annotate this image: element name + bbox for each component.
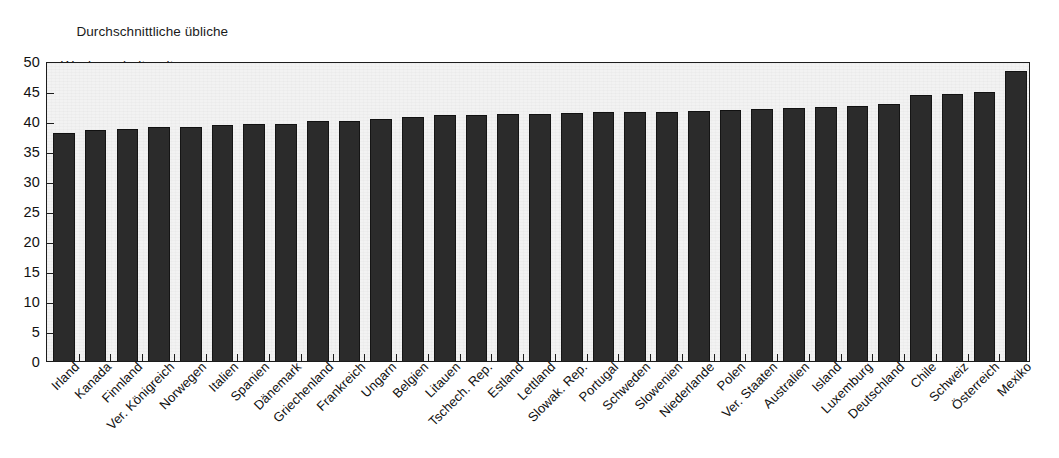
bar <box>878 104 900 361</box>
bar <box>561 113 583 361</box>
bar <box>497 114 519 361</box>
bar <box>847 106 869 361</box>
y-axis-tick-label: 45 <box>0 84 40 100</box>
x-axis: IrlandKanadaFinnlandVer. KönigreichNorwe… <box>0 362 1059 458</box>
y-axis-tick-label: 10 <box>0 294 40 310</box>
bar <box>466 115 488 361</box>
y-axis-tick-mark <box>47 93 54 94</box>
y-axis-tick-mark <box>47 183 54 184</box>
y-axis-tick-mark <box>47 303 54 304</box>
bar <box>307 121 329 361</box>
y-axis-tick-label: 50 <box>0 54 40 70</box>
y-axis-tick-mark <box>47 243 54 244</box>
y-axis-tick-mark <box>47 213 54 214</box>
y-axis-tick-mark <box>47 333 54 334</box>
bar <box>434 115 456 361</box>
y-axis-tick-label: 5 <box>0 324 40 340</box>
y-axis-tick-mark <box>47 273 54 274</box>
bar <box>656 112 678 361</box>
chart-container: Durchschnittliche übliche Wochenarbeitsz… <box>0 0 1059 458</box>
y-axis-tick-mark <box>47 153 54 154</box>
y-axis-tick-label: 25 <box>0 204 40 220</box>
chart-title-line-1: Durchschnittliche übliche <box>76 24 228 39</box>
y-axis-tick-label: 20 <box>0 234 40 250</box>
y-axis-tick-label: 40 <box>0 114 40 130</box>
bar <box>53 133 75 361</box>
bar <box>1005 71 1027 361</box>
bar <box>974 92 996 361</box>
bar <box>85 130 107 361</box>
y-axis-tick-label: 15 <box>0 264 40 280</box>
y-axis-tick-mark <box>47 123 54 124</box>
bar <box>783 108 805 361</box>
y-axis-tick-label: 30 <box>0 174 40 190</box>
y-axis-tick-label: 35 <box>0 144 40 160</box>
bar <box>593 112 615 361</box>
